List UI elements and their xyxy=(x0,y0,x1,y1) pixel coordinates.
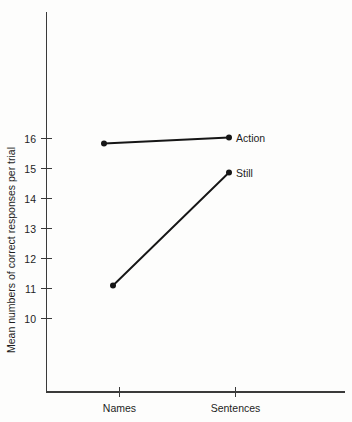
data-point-still-names xyxy=(110,283,116,289)
line-chart: 16 15 14 13 12 11 10 Names Sentences Mea… xyxy=(0,0,352,422)
y-tick-label-15: 15 xyxy=(24,163,36,175)
data-point-action-sentences xyxy=(226,135,232,141)
data-point-still-sentences xyxy=(226,170,232,176)
y-tick-label-12: 12 xyxy=(24,253,36,265)
y-tick-label-14: 14 xyxy=(24,193,36,205)
y-axis-title: Mean numbers of correct responses per tr… xyxy=(5,147,17,353)
series-label-action: Action xyxy=(236,132,265,144)
chart-plot-area: 16 15 14 13 12 11 10 Names Sentences Mea… xyxy=(0,0,352,422)
series-label-still: Still xyxy=(236,167,253,179)
y-tick-label-13: 13 xyxy=(24,223,36,235)
series-line-still xyxy=(113,173,229,286)
y-tick-label-10: 10 xyxy=(24,313,36,325)
x-tick-label-names: Names xyxy=(103,402,136,414)
y-tick-label-16: 16 xyxy=(24,133,36,145)
y-tick-label-11: 11 xyxy=(25,283,36,295)
x-tick-label-sentences: Sentences xyxy=(211,402,261,414)
data-point-action-names xyxy=(101,141,107,147)
series-line-action xyxy=(104,138,229,144)
